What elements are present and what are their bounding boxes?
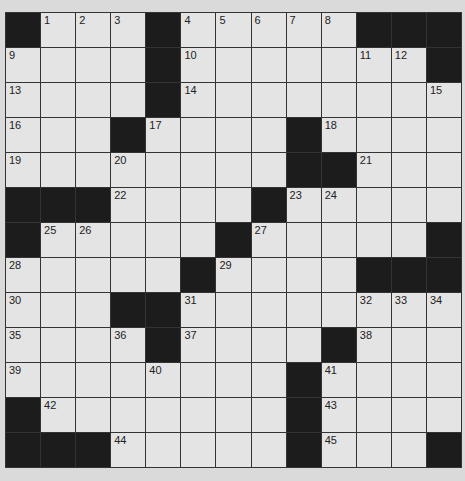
crossword-cell[interactable] [252, 153, 286, 187]
crossword-cell[interactable] [216, 153, 250, 187]
crossword-cell[interactable] [322, 48, 356, 82]
crossword-cell[interactable]: 31 [181, 293, 215, 327]
crossword-cell[interactable] [41, 363, 75, 397]
crossword-cell[interactable] [427, 328, 461, 362]
crossword-cell[interactable] [216, 398, 250, 432]
crossword-cell[interactable] [76, 258, 110, 292]
crossword-cell[interactable] [392, 188, 426, 222]
crossword-cell[interactable] [252, 398, 286, 432]
crossword-cell[interactable] [287, 83, 321, 117]
crossword-cell[interactable]: 44 [111, 433, 145, 467]
crossword-cell[interactable] [427, 398, 461, 432]
crossword-cell[interactable] [41, 83, 75, 117]
crossword-cell[interactable]: 30 [6, 293, 40, 327]
crossword-cell[interactable]: 32 [357, 293, 391, 327]
crossword-cell[interactable]: 20 [111, 153, 145, 187]
crossword-cell[interactable] [287, 293, 321, 327]
crossword-cell[interactable] [41, 328, 75, 362]
crossword-cell[interactable]: 5 [216, 13, 250, 47]
crossword-cell[interactable]: 15 [427, 83, 461, 117]
crossword-cell[interactable] [146, 398, 180, 432]
crossword-cell[interactable] [146, 223, 180, 257]
crossword-cell[interactable]: 26 [76, 223, 110, 257]
crossword-cell[interactable] [392, 223, 426, 257]
crossword-cell[interactable]: 13 [6, 83, 40, 117]
crossword-cell[interactable] [41, 293, 75, 327]
crossword-cell[interactable] [392, 398, 426, 432]
crossword-cell[interactable]: 18 [322, 118, 356, 152]
crossword-cell[interactable] [181, 433, 215, 467]
crossword-cell[interactable] [111, 223, 145, 257]
crossword-cell[interactable] [252, 118, 286, 152]
crossword-cell[interactable]: 25 [41, 223, 75, 257]
crossword-cell[interactable] [76, 293, 110, 327]
crossword-cell[interactable] [252, 293, 286, 327]
crossword-cell[interactable]: 33 [392, 293, 426, 327]
crossword-cell[interactable] [287, 328, 321, 362]
crossword-cell[interactable]: 22 [111, 188, 145, 222]
crossword-cell[interactable] [216, 363, 250, 397]
crossword-cell[interactable] [357, 188, 391, 222]
crossword-cell[interactable] [392, 83, 426, 117]
crossword-cell[interactable] [427, 363, 461, 397]
crossword-cell[interactable] [216, 328, 250, 362]
crossword-cell[interactable]: 6 [252, 13, 286, 47]
crossword-cell[interactable] [111, 258, 145, 292]
crossword-cell[interactable]: 1 [41, 13, 75, 47]
crossword-cell[interactable] [76, 398, 110, 432]
crossword-cell[interactable] [252, 83, 286, 117]
crossword-cell[interactable] [392, 118, 426, 152]
crossword-cell[interactable] [322, 223, 356, 257]
crossword-cell[interactable]: 3 [111, 13, 145, 47]
crossword-cell[interactable] [181, 188, 215, 222]
crossword-cell[interactable] [216, 118, 250, 152]
crossword-cell[interactable] [76, 48, 110, 82]
crossword-cell[interactable] [357, 433, 391, 467]
crossword-cell[interactable] [146, 433, 180, 467]
crossword-cell[interactable] [252, 363, 286, 397]
crossword-cell[interactable] [357, 118, 391, 152]
crossword-cell[interactable]: 28 [6, 258, 40, 292]
crossword-cell[interactable] [216, 83, 250, 117]
crossword-cell[interactable] [252, 328, 286, 362]
crossword-cell[interactable]: 35 [6, 328, 40, 362]
crossword-cell[interactable]: 40 [146, 363, 180, 397]
crossword-cell[interactable] [357, 398, 391, 432]
crossword-cell[interactable] [357, 83, 391, 117]
crossword-cell[interactable] [76, 363, 110, 397]
crossword-cell[interactable]: 14 [181, 83, 215, 117]
crossword-cell[interactable] [76, 83, 110, 117]
crossword-cell[interactable] [252, 48, 286, 82]
crossword-cell[interactable] [216, 293, 250, 327]
crossword-cell[interactable]: 36 [111, 328, 145, 362]
crossword-cell[interactable] [146, 188, 180, 222]
crossword-cell[interactable]: 29 [216, 258, 250, 292]
crossword-cell[interactable] [287, 223, 321, 257]
crossword-cell[interactable]: 19 [6, 153, 40, 187]
crossword-cell[interactable]: 43 [322, 398, 356, 432]
crossword-cell[interactable]: 39 [6, 363, 40, 397]
crossword-cell[interactable] [181, 363, 215, 397]
crossword-cell[interactable] [111, 398, 145, 432]
crossword-cell[interactable] [76, 118, 110, 152]
crossword-cell[interactable] [111, 83, 145, 117]
crossword-cell[interactable] [427, 188, 461, 222]
crossword-cell[interactable] [287, 48, 321, 82]
crossword-cell[interactable] [41, 153, 75, 187]
crossword-cell[interactable] [216, 188, 250, 222]
crossword-cell[interactable] [357, 363, 391, 397]
crossword-cell[interactable]: 8 [322, 13, 356, 47]
crossword-cell[interactable] [76, 153, 110, 187]
crossword-cell[interactable] [392, 363, 426, 397]
crossword-cell[interactable]: 41 [322, 363, 356, 397]
crossword-cell[interactable] [41, 118, 75, 152]
crossword-cell[interactable] [252, 433, 286, 467]
crossword-cell[interactable] [322, 258, 356, 292]
crossword-cell[interactable]: 9 [6, 48, 40, 82]
crossword-cell[interactable] [392, 328, 426, 362]
crossword-cell[interactable] [216, 433, 250, 467]
crossword-cell[interactable]: 16 [6, 118, 40, 152]
crossword-cell[interactable] [76, 328, 110, 362]
crossword-cell[interactable] [41, 258, 75, 292]
crossword-cell[interactable]: 7 [287, 13, 321, 47]
